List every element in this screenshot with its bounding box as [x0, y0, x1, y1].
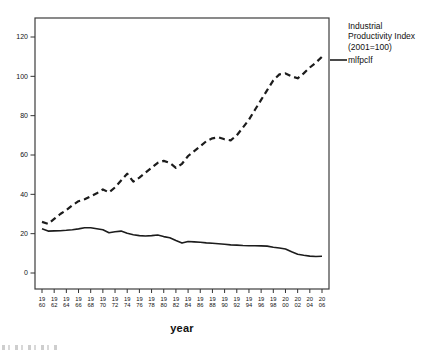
legend: Industrial Productivity Index (2001=100)… — [330, 21, 434, 66]
x-axis-tick-label-year: 82 — [173, 302, 179, 308]
x-axis-tick-label-year: 92 — [234, 302, 240, 308]
x-axis-tick-label-year: 06 — [319, 302, 325, 308]
cropped-text-fragment — [2, 345, 60, 350]
x-axis-tick-label-year: 96 — [258, 302, 264, 308]
legend-label-line1: Industrial — [348, 21, 434, 31]
legend-label-line3: (2001=100) — [348, 42, 434, 52]
x-axis-tick-label-year: 02 — [294, 302, 300, 308]
x-axis-tick-label-year: 60 — [39, 302, 45, 308]
y-axis-tick-label: 80 — [20, 112, 28, 119]
x-axis-tick-label-year: 68 — [87, 302, 93, 308]
series-line-mlfpclf — [42, 228, 322, 257]
legend-item-productivity-index: Industrial Productivity Index (2001=100) — [330, 21, 434, 52]
chart-figure: 0204060801001201960196219641966196819701… — [0, 0, 434, 351]
x-axis-tick-label-year: 94 — [246, 302, 253, 308]
legend-label-productivity-index: Industrial Productivity Index (2001=100) — [348, 21, 434, 52]
y-axis-tick-label: 120 — [16, 33, 28, 40]
x-axis-tick-label-year: 64 — [63, 302, 70, 308]
x-axis-tick-label-year: 84 — [185, 302, 192, 308]
x-axis-tick-label-year: 78 — [148, 302, 154, 308]
x-axis-tick-label-year: 00 — [282, 302, 288, 308]
x-axis-tick-label-year: 88 — [209, 302, 215, 308]
x-axis-tick-label-year: 72 — [112, 302, 118, 308]
y-axis-tick-label: 0 — [24, 269, 28, 276]
legend-item-mlfpclf: mlfpclf — [330, 55, 434, 65]
x-axis-tick-label-year: 76 — [136, 302, 142, 308]
x-axis-tick-label-year: 04 — [307, 302, 314, 308]
x-axis-tick-label-year: 66 — [75, 302, 81, 308]
x-axis-tick-label-year: 62 — [51, 302, 57, 308]
legend-label-mlfpclf: mlfpclf — [348, 55, 434, 65]
y-axis-tick-label: 100 — [16, 73, 28, 80]
x-axis-tick-label-year: 80 — [161, 302, 167, 308]
x-axis-tick-label-year: 86 — [197, 302, 203, 308]
x-axis-tick-label-year: 98 — [270, 302, 276, 308]
dashed-line-sample-icon — [330, 21, 348, 31]
y-axis-tick-label: 20 — [20, 230, 28, 237]
x-axis-title: year — [35, 322, 329, 334]
y-axis-tick-label: 60 — [20, 151, 28, 158]
series-line-productivity-index — [42, 57, 322, 224]
x-axis-tick-label-year: 70 — [100, 302, 106, 308]
x-axis-tick-label-year: 74 — [124, 302, 131, 308]
legend-label-line2: Productivity Index — [348, 31, 434, 41]
solid-line-sample-icon — [330, 55, 348, 65]
x-axis-tick-label-year: 90 — [221, 302, 227, 308]
y-axis-tick-label: 40 — [20, 191, 28, 198]
